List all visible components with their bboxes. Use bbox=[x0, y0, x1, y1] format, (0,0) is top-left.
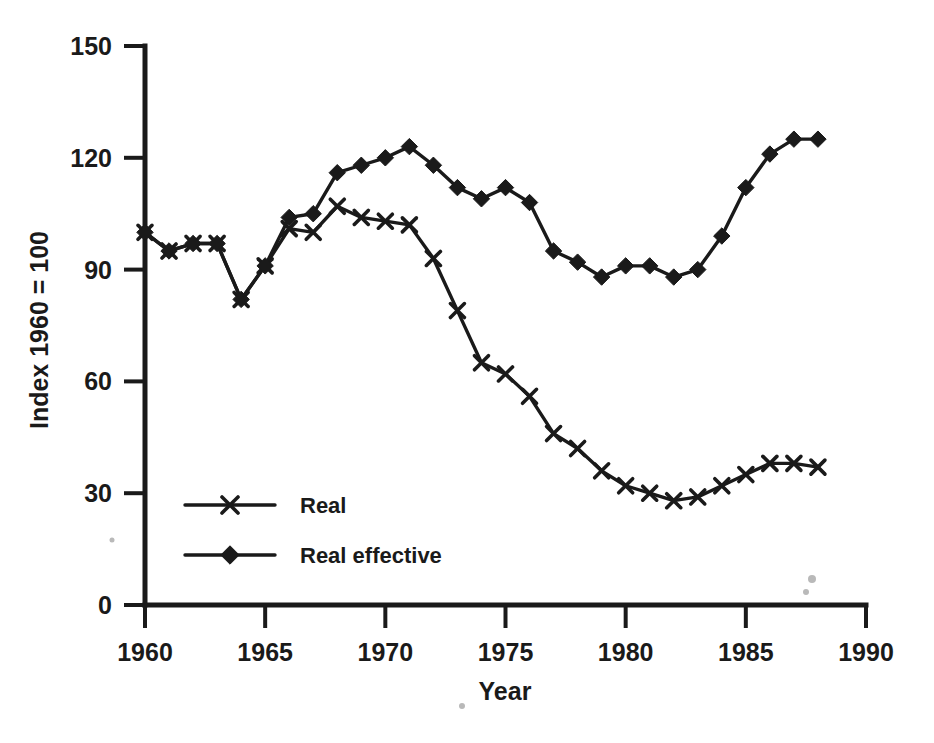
marker-diamond-icon bbox=[521, 194, 537, 210]
line-chart: 0306090120150 19601965197019751980198519… bbox=[0, 0, 934, 743]
marker-diamond-icon bbox=[473, 191, 489, 207]
marker-diamond-icon bbox=[221, 546, 239, 564]
series-path bbox=[145, 206, 818, 500]
x-tick-label: 1990 bbox=[838, 638, 894, 666]
y-axis-title: Index 1960 = 100 bbox=[25, 231, 53, 429]
scan-speck bbox=[110, 538, 115, 543]
x-tick-label: 1975 bbox=[478, 638, 534, 666]
series-real bbox=[138, 199, 825, 507]
y-tick-label: 90 bbox=[84, 256, 112, 284]
scan-speck bbox=[459, 703, 465, 709]
x-axis-ticks bbox=[145, 605, 866, 628]
legend-label: Real bbox=[300, 493, 346, 518]
x-tick-label: 1960 bbox=[117, 638, 173, 666]
x-axis-tick-labels: 1960196519701975198019851990 bbox=[117, 638, 894, 666]
marker-diamond-icon bbox=[545, 243, 561, 259]
scan-speck bbox=[808, 575, 816, 583]
marker-diamond-icon bbox=[329, 165, 345, 181]
y-axis-ticks bbox=[124, 46, 145, 605]
x-tick-label: 1980 bbox=[598, 638, 654, 666]
marker-diamond-icon bbox=[593, 269, 609, 285]
x-tick-label: 1965 bbox=[237, 638, 293, 666]
x-tick-label: 1985 bbox=[718, 638, 774, 666]
marker-diamond-icon bbox=[666, 269, 682, 285]
x-tick-label: 1970 bbox=[358, 638, 414, 666]
legend-item-real-effective[interactable]: Real effective bbox=[185, 543, 442, 568]
marker-diamond-icon bbox=[353, 157, 369, 173]
marker-diamond-icon bbox=[569, 254, 585, 270]
scan-speck bbox=[803, 589, 809, 595]
y-tick-label: 60 bbox=[84, 367, 112, 395]
x-axis-title: Year bbox=[479, 677, 532, 705]
y-tick-label: 30 bbox=[84, 479, 112, 507]
marker-diamond-icon bbox=[810, 131, 826, 147]
marker-diamond-icon bbox=[377, 150, 393, 166]
series-path bbox=[145, 139, 818, 299]
series-layer bbox=[137, 131, 826, 508]
marker-diamond-icon bbox=[786, 131, 802, 147]
chart-legend: RealReal effective bbox=[185, 493, 442, 568]
marker-diamond-icon bbox=[642, 258, 658, 274]
marker-diamond-icon bbox=[497, 179, 513, 195]
marker-diamond-icon bbox=[305, 206, 321, 222]
legend-item-real[interactable]: Real bbox=[185, 493, 346, 518]
y-tick-label: 120 bbox=[70, 144, 112, 172]
chart-container: 0306090120150 19601965197019751980198519… bbox=[0, 0, 934, 743]
series-real-effective bbox=[137, 131, 826, 308]
y-axis-tick-labels: 0306090120150 bbox=[70, 32, 112, 619]
marker-diamond-icon bbox=[617, 258, 633, 274]
y-tick-label: 0 bbox=[98, 591, 112, 619]
y-tick-label: 150 bbox=[70, 32, 112, 60]
legend-label: Real effective bbox=[300, 543, 442, 568]
